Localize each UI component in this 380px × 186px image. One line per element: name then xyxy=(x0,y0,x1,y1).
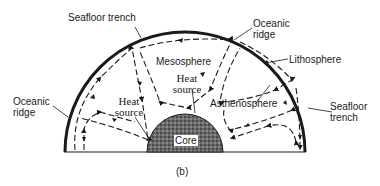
label-mesosphere: Mesosphere xyxy=(156,56,211,67)
label-lithosphere: Lithosphere xyxy=(289,54,341,65)
label-seafloor-trench-right-line1: Seafloor xyxy=(330,101,367,112)
label-oceanic-ridge-left-line1: Oceanic xyxy=(13,96,50,107)
leader-seafloor-trench-right xyxy=(308,108,332,112)
core-semicircle xyxy=(147,114,223,152)
leader-oceanic-ridge-left xyxy=(53,106,68,117)
figure-caption: (b) xyxy=(176,166,188,177)
convection-cell-upper-right xyxy=(220,42,292,102)
label-heat-source-center-line2: source xyxy=(168,84,206,95)
label-oceanic-ridge-top: Oceanic ridge xyxy=(253,18,290,40)
label-seafloor-trench-right: Seafloor trench xyxy=(330,101,367,123)
leader-oceanic-ridge-top xyxy=(234,28,252,40)
leader-seafloor-trench-top xyxy=(135,27,141,38)
label-oceanic-ridge-left: Oceanic ridge xyxy=(13,96,50,118)
label-seafloor-trench-right-line2: trench xyxy=(330,112,367,123)
label-heat-source-left-line2: source xyxy=(110,107,148,118)
label-oceanic-ridge-top-line1: Oceanic xyxy=(253,18,290,29)
label-oceanic-ridge-top-line2: ridge xyxy=(253,29,290,40)
label-asthenosphere: Asthenosphere xyxy=(210,98,277,109)
label-heat-source-left: Heat source xyxy=(110,96,148,118)
convection-cell-right xyxy=(224,88,300,148)
label-seafloor-trench-top: Seafloor trench xyxy=(68,12,136,23)
label-core: Core xyxy=(174,135,198,146)
leader-lithosphere xyxy=(270,59,288,62)
label-heat-source-center: Heat source xyxy=(168,73,206,95)
label-oceanic-ridge-left-line2: ridge xyxy=(13,107,50,118)
